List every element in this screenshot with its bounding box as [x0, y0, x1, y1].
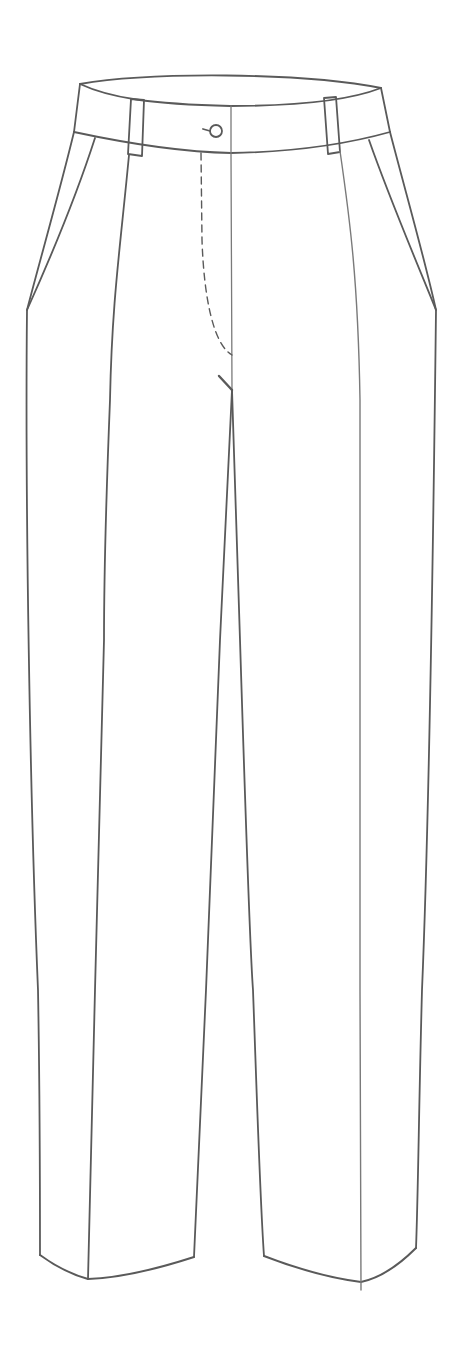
button-icon: [203, 125, 222, 137]
center-front-line: [231, 106, 232, 390]
trousers-drawing: [0, 0, 449, 1372]
fly-topstitch: [201, 153, 232, 355]
left-inseam: [194, 390, 232, 1257]
right-pocket-line: [369, 140, 436, 310]
left-hem: [40, 1255, 194, 1279]
left-pocket-line: [27, 138, 95, 310]
right-hem: [264, 1248, 416, 1282]
trousers-sketch: Trousers technical flat sketch (front vi…: [0, 0, 449, 1372]
right-side-seam: [390, 132, 436, 1248]
belt-loop-left: [128, 99, 144, 156]
left-crease: [88, 155, 129, 1279]
waistband: [74, 75, 390, 153]
right-inseam: [232, 390, 264, 1256]
fly-bartack: [219, 376, 232, 390]
left-side-seam: [27, 132, 74, 1255]
right-crease: [340, 151, 361, 1290]
